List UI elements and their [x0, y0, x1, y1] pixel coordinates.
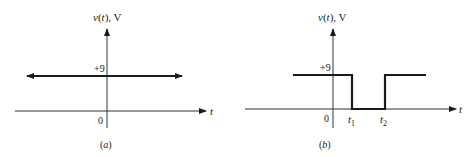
caption-b: (b)	[319, 139, 331, 151]
level-label-a: +9	[94, 63, 105, 74]
y-axis-label-b: v(t), V	[318, 11, 347, 24]
level-label-b: +9	[320, 62, 331, 73]
panel-a: v(t), V +9 0 t (a)	[15, 11, 214, 151]
origin-label-a: 0	[98, 115, 103, 126]
t-axis-label-a: t	[210, 105, 214, 117]
origin-label-b: 0	[324, 113, 329, 124]
t-axis-label-b: t	[459, 103, 463, 115]
t2-label: t2	[380, 113, 387, 128]
panel-b: v(t), V +9 0 t1 t2 t (b)	[245, 11, 463, 151]
y-axis-label-a: v(t), V	[93, 11, 122, 24]
pulse-waveform	[293, 75, 426, 109]
t1-label: t1	[348, 113, 355, 128]
diagram-canvas: v(t), V +9 0 t (a) v(t), V +9 0 t1 t2 t …	[0, 0, 475, 157]
caption-a: (a)	[100, 139, 112, 151]
